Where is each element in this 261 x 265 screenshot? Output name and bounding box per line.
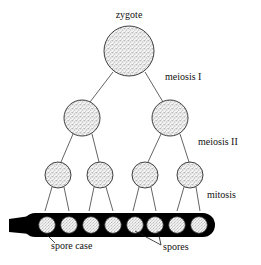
- spore-cell: [39, 217, 56, 234]
- connector-m2-c-to-spore-5: [133, 187, 139, 211]
- spore-cell: [147, 217, 164, 234]
- spore-cell: [83, 217, 100, 234]
- connector-m2-c-to-spore-6: [151, 187, 156, 211]
- meiosis-ii-cell: [132, 162, 158, 188]
- label-meiosis-ii: meiosis II: [198, 136, 238, 147]
- meiosis-spore-formation-diagram: zygote meiosis I meiosis II mitosis spor…: [0, 0, 261, 265]
- meiosis-ii-cell: [87, 162, 113, 188]
- spore-cell: [105, 217, 122, 234]
- meiosis-ii-cell: [45, 162, 71, 188]
- connector-m2-b-to-spore-3: [89, 187, 94, 211]
- diagram-canvas: zygote meiosis I meiosis II mitosis spor…: [0, 0, 261, 265]
- label-meiosis-i: meiosis I: [165, 71, 201, 82]
- connector-m1-left-to-m2-a: [61, 134, 73, 162]
- meiosis-i-cell: [152, 100, 188, 136]
- connectors-meiosis-i: [90, 72, 163, 102]
- meiosis-ii-cell: [177, 162, 203, 188]
- connector-zygote-to-cell-right: [145, 72, 163, 102]
- spore-cell: [127, 217, 144, 234]
- zygote-cell-group: [104, 26, 154, 76]
- connectors-meiosis-ii: [61, 134, 189, 162]
- connector-m2-d-to-spore-7: [177, 187, 184, 211]
- connector-m1-left-to-m2-b: [92, 134, 99, 162]
- spore-cell: [169, 217, 186, 234]
- zygote-cell: [104, 26, 154, 76]
- connector-m1-right-to-m2-d: [180, 134, 189, 162]
- label-zygote: zygote: [116, 9, 143, 20]
- connector-m1-right-to-m2-c: [148, 134, 161, 162]
- connector-m2-a-to-spore-1: [45, 187, 52, 211]
- meiosis-i-cell: [64, 100, 100, 136]
- spore-cell: [191, 217, 208, 234]
- connectors-mitosis: [45, 187, 200, 211]
- label-spores: spores: [163, 241, 189, 252]
- label-mitosis: mitosis: [207, 189, 236, 200]
- connector-m2-b-to-spore-4: [106, 187, 113, 211]
- label-spore-case: spore case: [51, 240, 93, 251]
- connector-zygote-to-cell-left: [90, 72, 113, 102]
- meiosis-ii-cells: [45, 162, 203, 188]
- spore-cell: [61, 217, 78, 234]
- connector-m2-a-to-spore-2: [64, 187, 69, 211]
- connector-m2-d-to-spore-8: [196, 187, 200, 211]
- meiosis-i-cells: [64, 100, 188, 136]
